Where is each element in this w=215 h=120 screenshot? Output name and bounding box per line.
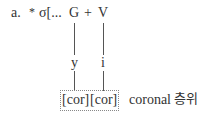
plus-sign: + (84, 6, 92, 20)
glide-segment-y: y (71, 56, 78, 70)
vowel-symbol: V (98, 6, 108, 20)
syllable-bracket: σ[... (39, 6, 62, 20)
tier-label: coronal (129, 93, 171, 107)
glide-symbol: G (69, 6, 79, 20)
y-feature-line (74, 71, 75, 91)
example-label: a. (11, 6, 21, 20)
vowel-segment-i: i (101, 56, 105, 70)
coronal-feature-2: [cor] (90, 93, 117, 107)
glide-association-line (74, 23, 75, 55)
coronal-feature-1: [cor] (62, 93, 89, 107)
vowel-association-line (103, 23, 104, 55)
tier-label-korean: 층위 (174, 92, 198, 105)
i-feature-line (103, 71, 104, 91)
ungrammatical-star: * (29, 6, 35, 18)
